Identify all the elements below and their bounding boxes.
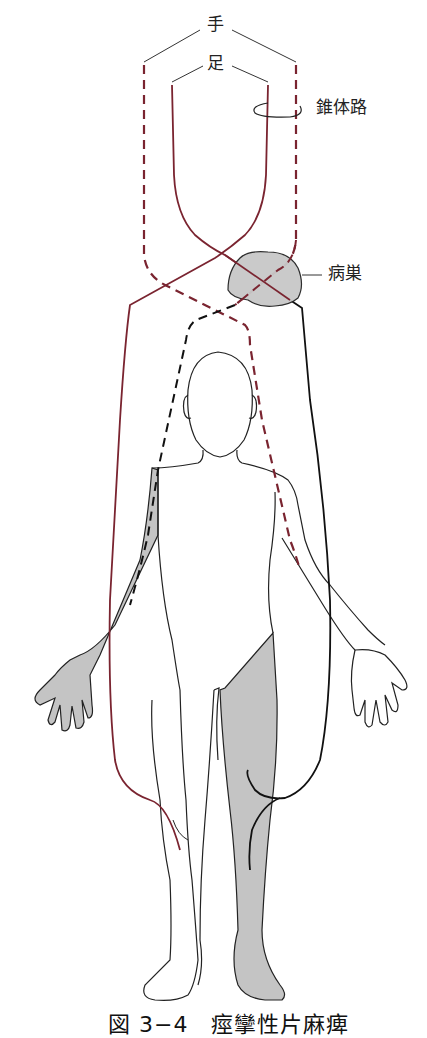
figure-caption: 図 3−4 痙攣性片麻痺 xyxy=(108,1006,349,1038)
label-pyramidal-tract: 錐体路 xyxy=(316,99,367,116)
paralyzed-right-arm xyxy=(35,468,158,731)
label-lesion: 病巣 xyxy=(328,265,362,282)
label-hand: 手 xyxy=(207,16,224,33)
hand-tract-dashed xyxy=(144,65,300,570)
paralyzed-left-leg xyxy=(220,633,285,1000)
pyramidal-tract-marker xyxy=(254,103,301,117)
label-foot: 足 xyxy=(207,55,224,72)
